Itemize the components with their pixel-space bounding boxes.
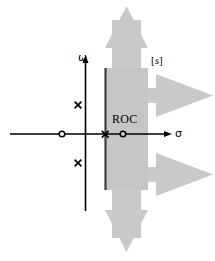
arrow-right-upper-icon	[143, 74, 213, 117]
real-axis-arrowhead	[164, 131, 172, 137]
s-plane-label: [s]	[151, 55, 163, 66]
roc-shaded-region-group	[105, 6, 213, 252]
pole-marker-upper	[75, 102, 82, 109]
sigma-axis-label: σ	[175, 128, 182, 139]
roc-label: ROC	[112, 113, 138, 125]
plot-canvas	[0, 0, 215, 261]
omega-axis-label: ω	[78, 52, 87, 63]
roc-band	[105, 68, 148, 190]
arrow-down-icon	[105, 186, 148, 252]
arrow-right-lower-icon	[143, 153, 213, 196]
arrow-up-icon	[105, 6, 148, 72]
pole-zero-plot-figure: ω σ [s] ROC	[0, 0, 215, 261]
zero-marker-negative-real	[59, 131, 65, 137]
zero-marker-positive-real	[120, 131, 126, 137]
s-plane-bracket-close: ]	[159, 54, 163, 66]
pole-marker-lower	[75, 160, 82, 167]
